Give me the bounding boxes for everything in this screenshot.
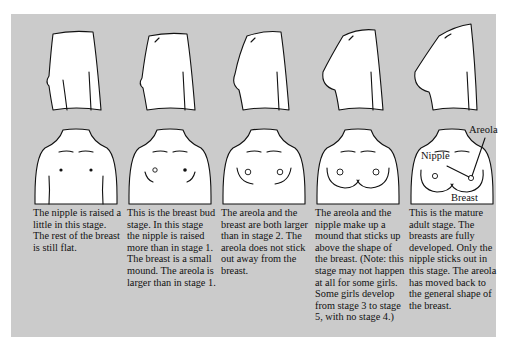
stage-4-caption: The areola and the nipple make up a moun…: [315, 207, 405, 323]
stage-3: The areola and the breast are both large…: [219, 14, 309, 337]
areola-label: Areola: [469, 124, 498, 135]
breast-label: Breast: [451, 192, 478, 203]
stage-1-side-view: [31, 20, 121, 120]
stage-1-front-view: [31, 126, 121, 206]
stage-3-side-view: [219, 20, 309, 120]
stage-5-caption: This is the mature adult stage. The brea…: [409, 207, 499, 311]
stage-5: Areola Nipple Breast This is the mature …: [407, 14, 497, 337]
stage-2: This is the breast bud stage. In this st…: [125, 14, 215, 337]
stage-4: The areola and the nipple make up a moun…: [313, 14, 403, 337]
diagram-panel: The nipple is raised a little in this st…: [11, 14, 496, 337]
stage-4-front-view: [313, 126, 403, 206]
stage-3-front-view: [219, 126, 309, 206]
stage-1-caption: The nipple is raised a little in this st…: [33, 207, 123, 253]
stage-5-side-view: [407, 20, 497, 120]
stage-2-side-view: [125, 20, 215, 120]
stage-2-front-view: [125, 126, 215, 206]
stage-1: The nipple is raised a little in this st…: [31, 14, 121, 337]
stage-4-side-view: [313, 20, 403, 120]
stage-2-caption: This is the breast bud stage. In this st…: [127, 207, 217, 288]
stage-3-caption: The areola and the breast are both large…: [221, 207, 311, 277]
nipple-label: Nipple: [421, 150, 450, 161]
